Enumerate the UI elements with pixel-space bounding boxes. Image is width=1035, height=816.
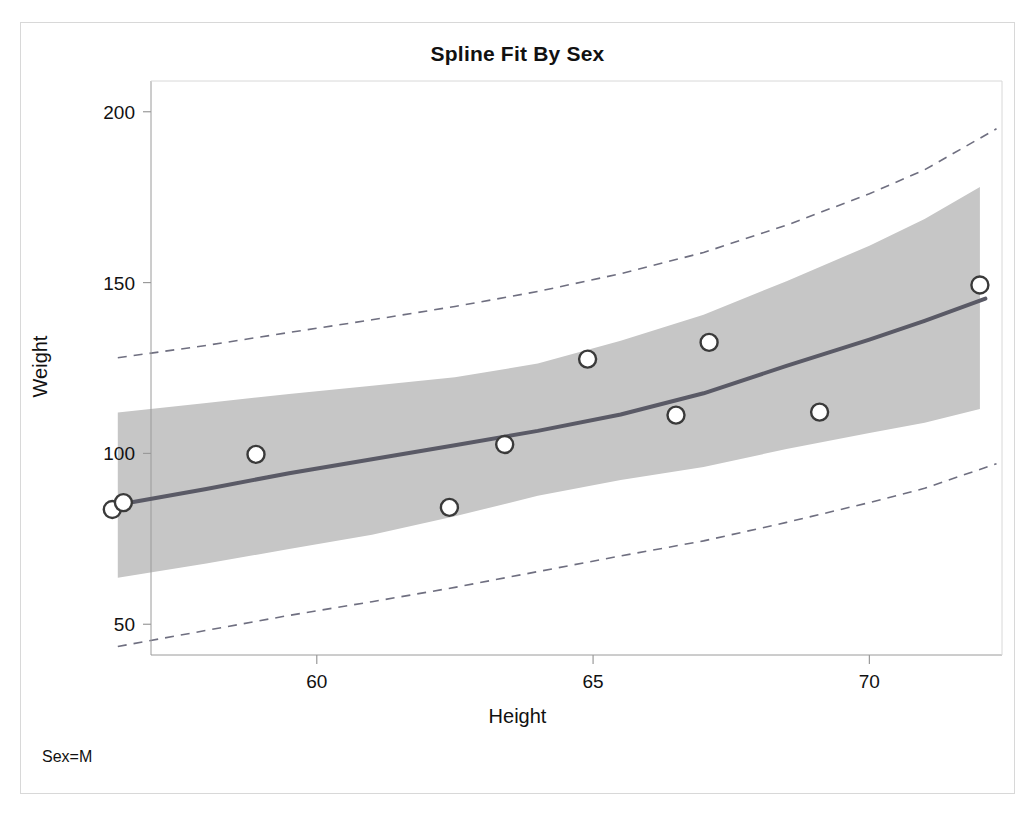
scatter-point — [971, 277, 988, 294]
y-tick-label: 50 — [114, 614, 135, 635]
scatter-point — [811, 404, 828, 421]
confidence-band — [118, 187, 980, 578]
y-tick-label: 150 — [103, 273, 135, 294]
scatter-point — [441, 499, 458, 516]
chart-page: Spline Fit By Sex 50100150200606570 Heig… — [0, 0, 1035, 816]
x-axis-label: Height — [0, 705, 1035, 728]
scatter-point — [115, 494, 132, 511]
scatter-point — [496, 436, 513, 453]
scatter-point — [579, 351, 596, 368]
x-tick-label: 65 — [583, 671, 604, 692]
scatter-point — [668, 407, 685, 424]
y-axis-label: Weight — [29, 287, 52, 447]
panel-annotation: Sex=M — [42, 748, 92, 766]
scatter-point — [248, 446, 265, 463]
x-tick-label: 60 — [306, 671, 327, 692]
y-tick-label: 100 — [103, 443, 135, 464]
x-tick-label: 70 — [859, 671, 880, 692]
plot-canvas: 50100150200606570 — [0, 0, 1035, 816]
y-tick-label: 200 — [103, 102, 135, 123]
scatter-point — [701, 334, 718, 351]
